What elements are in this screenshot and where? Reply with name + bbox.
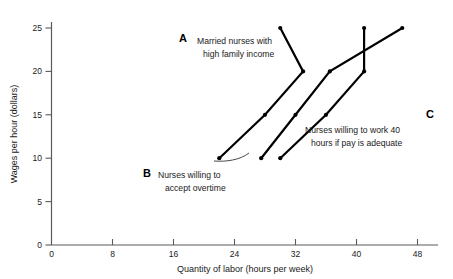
x-tick-label: 8 bbox=[110, 249, 115, 259]
x-tick-label: 24 bbox=[230, 249, 240, 259]
y-tick-group: 0510152025 bbox=[33, 23, 52, 250]
x-tick-label: 32 bbox=[291, 249, 301, 259]
y-tick-label: 20 bbox=[33, 66, 43, 76]
data-point-b-3 bbox=[400, 26, 404, 30]
curve-a bbox=[219, 28, 303, 158]
annotation-c-line1: Nurses willing to work 40 bbox=[305, 125, 400, 135]
annotation-b: B Nurses willing to accept overtime bbox=[143, 167, 226, 193]
series-letter-a: A bbox=[179, 32, 187, 44]
data-point-c-3 bbox=[362, 26, 366, 30]
x-tick-label: 40 bbox=[352, 249, 362, 259]
data-point-a-3 bbox=[278, 26, 282, 30]
y-tick-label: 15 bbox=[33, 110, 43, 120]
data-point-b-2 bbox=[328, 69, 332, 73]
annotation-b-line2: accept overtime bbox=[165, 183, 226, 193]
annotation-b-line1: Nurses willing to bbox=[158, 170, 221, 180]
y-tick-label: 25 bbox=[33, 23, 43, 33]
series-letter-b: B bbox=[143, 167, 151, 179]
y-axis-title: Wages per hour (dollars) bbox=[9, 85, 19, 184]
series-letter-c: C bbox=[426, 108, 434, 120]
annotation-c-line2: hours if pay is adequate bbox=[311, 138, 402, 148]
data-point-c-2 bbox=[362, 69, 366, 73]
y-tick-label: 5 bbox=[37, 197, 42, 207]
data-point-a-0 bbox=[217, 156, 221, 160]
y-tick-label: 10 bbox=[33, 153, 43, 163]
data-point-a-1 bbox=[263, 113, 267, 117]
data-point-b-1 bbox=[293, 113, 297, 117]
x-tick-group: 081624324048 bbox=[49, 239, 422, 259]
annotation-a-line2: high family income bbox=[203, 49, 274, 59]
y-tick-label: 0 bbox=[37, 240, 42, 250]
data-point-a-2 bbox=[301, 69, 305, 73]
x-tick-label: 48 bbox=[413, 249, 423, 259]
chart-container: 0510152025 081624324048 Wages per hour (… bbox=[0, 0, 453, 279]
data-point-c-0 bbox=[278, 156, 282, 160]
x-tick-label: 16 bbox=[169, 249, 179, 259]
annotation-a-line1: Married nurses with bbox=[197, 36, 272, 46]
labor-supply-curves-chart: 0510152025 081624324048 Wages per hour (… bbox=[0, 0, 453, 279]
data-point-c-1 bbox=[324, 113, 328, 117]
data-point-b-0 bbox=[259, 156, 263, 160]
x-tick-label: 0 bbox=[49, 249, 54, 259]
annotation-a: A Married nurses with high family income bbox=[179, 32, 274, 59]
series-a bbox=[217, 26, 305, 160]
x-axis-title: Quantity of labor (hours per week) bbox=[177, 264, 313, 274]
